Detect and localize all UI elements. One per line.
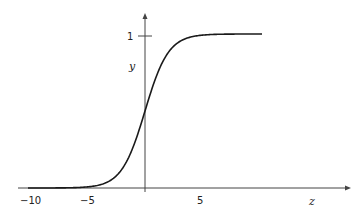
x-tick-label-minus-5: −5 — [80, 195, 95, 206]
y-axis-label: y — [128, 60, 136, 73]
y-tick-label-1: 1 — [127, 31, 133, 42]
x-tick-label-minus-10: −10 — [20, 195, 41, 206]
x-tick-label-5: 5 — [197, 195, 203, 206]
sigmoid-chart: 1 y −10 −5 5 z — [0, 0, 363, 218]
x-axis-label: z — [308, 195, 315, 208]
x-axis-arrow-icon — [345, 186, 351, 191]
y-axis-arrow-icon — [143, 13, 148, 19]
